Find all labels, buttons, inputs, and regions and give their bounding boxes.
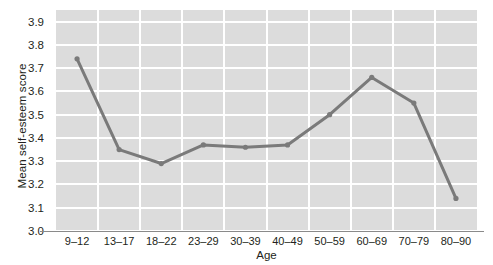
data-point-marker: [453, 196, 458, 201]
x-axis-tick-label: 9–12: [65, 234, 89, 248]
y-axis-tick-label: 3.8: [28, 39, 54, 51]
data-point-marker: [159, 161, 164, 166]
data-point-marker: [411, 100, 416, 105]
plot-area: [56, 10, 477, 231]
series-polyline: [77, 59, 456, 199]
y-axis-tick-label: 3.2: [28, 178, 54, 190]
x-axis-tick-label: 50–59: [314, 234, 345, 248]
y-axis-tick-label: 3.5: [28, 109, 54, 121]
x-axis-title: Age: [56, 249, 477, 261]
y-axis-tick-label: 3.3: [28, 155, 54, 167]
x-axis-tick-label: 70–79: [399, 234, 430, 248]
y-axis-tick-label: 3.9: [28, 16, 54, 28]
data-point-marker: [243, 145, 248, 150]
y-axis-tick-label: 3.7: [28, 62, 54, 74]
y-axis-tick-label: 3.1: [28, 202, 54, 214]
x-axis-tick-label: 80–90: [441, 234, 472, 248]
self-esteem-by-age-line-chart: Mean self-esteem score 3.03.13.23.33.43.…: [0, 0, 493, 265]
data-point-marker: [285, 142, 290, 147]
y-axis-tick-label: 3.4: [28, 132, 54, 144]
x-axis-tick-label: 23–29: [188, 234, 219, 248]
x-axis-tick-label: 13–17: [104, 234, 135, 248]
x-axis-line: [40, 231, 484, 232]
x-axis-tick-label: 60–69: [356, 234, 387, 248]
data-point-marker: [74, 56, 79, 61]
x-axis-tick-labels: 9–1213–1718–2223–2930–3940–4950–5960–697…: [56, 234, 477, 250]
data-point-marker: [117, 147, 122, 152]
x-axis-tick-label: 18–22: [146, 234, 177, 248]
series-line-mean-self-esteem-score: [56, 10, 477, 231]
data-point-marker: [201, 142, 206, 147]
x-axis-tick-label: 40–49: [272, 234, 303, 248]
y-axis-tick-label: 3.6: [28, 85, 54, 97]
series-markers: [74, 56, 458, 201]
data-point-marker: [327, 112, 332, 117]
x-axis-tick-label: 30–39: [230, 234, 261, 248]
y-axis-tick-labels: 3.03.13.23.33.43.53.63.73.83.9: [28, 10, 54, 231]
data-point-marker: [369, 75, 374, 80]
